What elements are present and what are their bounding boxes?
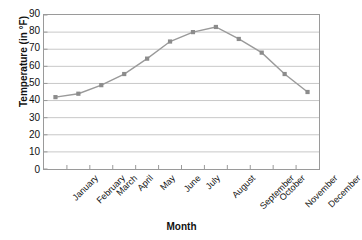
data-point-marker [76, 92, 80, 96]
data-point-marker [214, 25, 218, 29]
data-point-marker [191, 30, 195, 34]
x-tick-label: April [135, 173, 155, 193]
x-tick-label: December [326, 173, 362, 209]
y-tick-label: 50 [0, 78, 40, 88]
chart-title [43, 0, 320, 2]
x-tick-label: May [158, 173, 177, 192]
data-point-marker [53, 95, 57, 99]
y-axis-tick-labels: 90 80 70 60 50 40 30 20 10 0 [0, 0, 40, 240]
data-point-marker [260, 51, 264, 55]
x-tick-label: March [115, 173, 140, 198]
data-line [55, 27, 307, 97]
data-point-marker [237, 37, 241, 41]
plot-area [43, 14, 320, 170]
data-point-marker [122, 72, 126, 76]
data-point-marker [305, 90, 309, 94]
x-tick-label: November [303, 173, 339, 209]
x-tick-label: February [95, 173, 128, 206]
y-tick-label: 0 [0, 165, 40, 175]
x-tick-label: June [182, 173, 203, 194]
y-tick-label: 60 [0, 61, 40, 71]
x-tick-label: January [71, 173, 101, 203]
y-tick-label: 80 [0, 26, 40, 36]
y-tick-label: 90 [0, 9, 40, 19]
x-tick-label: October [277, 173, 307, 203]
y-tick-label: 30 [0, 113, 40, 123]
data-point-marker [145, 57, 149, 61]
data-point-marker [283, 72, 287, 76]
y-tick-label: 40 [0, 95, 40, 105]
x-axis-ticks [67, 165, 296, 169]
data-point-marker [99, 83, 103, 87]
y-tick-label: 10 [0, 147, 40, 157]
y-tick-label: 70 [0, 43, 40, 53]
x-tick-label: July [204, 173, 222, 191]
x-tick-label: August [230, 173, 257, 200]
x-axis-title: Month [43, 221, 320, 232]
y-tick-label: 20 [0, 130, 40, 140]
x-tick-label: September [258, 173, 296, 211]
plot-canvas [44, 15, 319, 169]
data-point-marker [168, 39, 172, 43]
y-axis-ticks [44, 15, 48, 169]
gridlines [44, 32, 319, 152]
